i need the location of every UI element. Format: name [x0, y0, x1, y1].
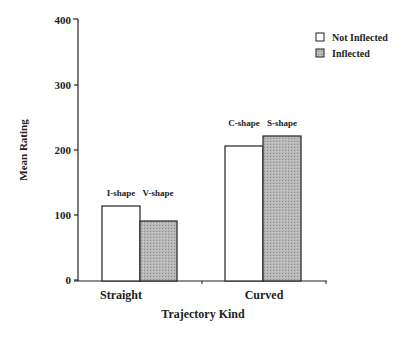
y-tick-label: 400 — [55, 14, 72, 26]
bar-group-curved: C-shape S-shape — [225, 118, 301, 281]
x-category-label: Straight — [100, 288, 142, 302]
x-axis: Straight Curved Trajectory Kind — [74, 281, 327, 321]
bar-i-shape — [102, 206, 140, 281]
y-axis-label: Mean Rating — [17, 119, 29, 181]
bar-label: V-shape — [143, 188, 174, 198]
bar-group-straight: I-shape V-shape — [102, 188, 177, 281]
legend-swatch-inflected — [316, 49, 324, 57]
y-tick-label: 200 — [55, 144, 72, 156]
bar-label: C-shape — [228, 118, 260, 128]
bar-label: I-shape — [107, 188, 136, 198]
legend-label: Inflected — [332, 48, 370, 59]
bar-v-shape — [140, 221, 177, 281]
x-axis-label: Trajectory Kind — [161, 307, 245, 321]
x-category-label: Curved — [245, 288, 284, 302]
bar-chart: 400 300 200 100 0 Mean Rating Straight C… — [0, 0, 408, 337]
bar-s-shape — [263, 136, 301, 281]
legend-label: Not Inflected — [332, 32, 388, 43]
bar-c-shape — [225, 146, 263, 281]
legend: Not Inflected Inflected — [316, 32, 388, 59]
bar-label: S-shape — [267, 118, 297, 128]
y-tick-label: 100 — [55, 209, 72, 221]
legend-swatch-not-inflected — [316, 33, 324, 41]
y-tick-label: 0 — [66, 274, 72, 286]
y-axis: 400 300 200 100 0 Mean Rating — [17, 14, 78, 286]
y-tick-label: 300 — [55, 79, 72, 91]
